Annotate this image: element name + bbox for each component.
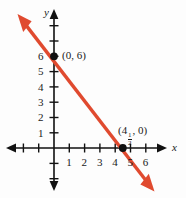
y-tick-label-2: 2: [38, 112, 44, 123]
x-tick-label-6: 6: [143, 157, 149, 168]
point-label-y-intercept: (0, 6): [62, 50, 86, 61]
point-label-y-intercept-text: (0, 6): [62, 49, 86, 61]
point-label-x-intercept-prefix: (4: [118, 124, 127, 136]
x-tick-label-1: 1: [66, 157, 72, 168]
coordinate-plane-graph: y x 6 5 4 3 2 1 1 2 3 4 5 6 (0, 6) (412,…: [0, 0, 186, 198]
graph-canvas: [0, 0, 186, 198]
x-tick-label-2: 2: [82, 157, 88, 168]
x-tick-label-5: 5: [128, 157, 134, 168]
point-marker-y-intercept: [50, 52, 58, 60]
y-tick-label-6: 6: [38, 51, 44, 62]
point-label-x-intercept-suffix: , 0): [132, 124, 147, 136]
y-tick-label-3: 3: [38, 97, 44, 108]
fraction-denominator: 2: [128, 139, 133, 147]
x-axis-label: x: [172, 142, 177, 153]
x-tick-label-4: 4: [112, 157, 118, 168]
x-axis-left-arrowhead: [6, 144, 16, 153]
x-axis-right-arrowhead: [157, 144, 167, 153]
point-label-x-intercept: (412, 0): [118, 125, 147, 147]
y-tick-label-1: 1: [38, 128, 44, 139]
y-axis-top-arrowhead: [50, 9, 59, 19]
y-axis-bottom-arrowhead: [50, 181, 59, 191]
y-axis-label: y: [44, 7, 49, 18]
y-tick-label-5: 5: [38, 66, 44, 77]
x-tick-label-3: 3: [97, 157, 103, 168]
y-tick-label-4: 4: [38, 82, 44, 93]
